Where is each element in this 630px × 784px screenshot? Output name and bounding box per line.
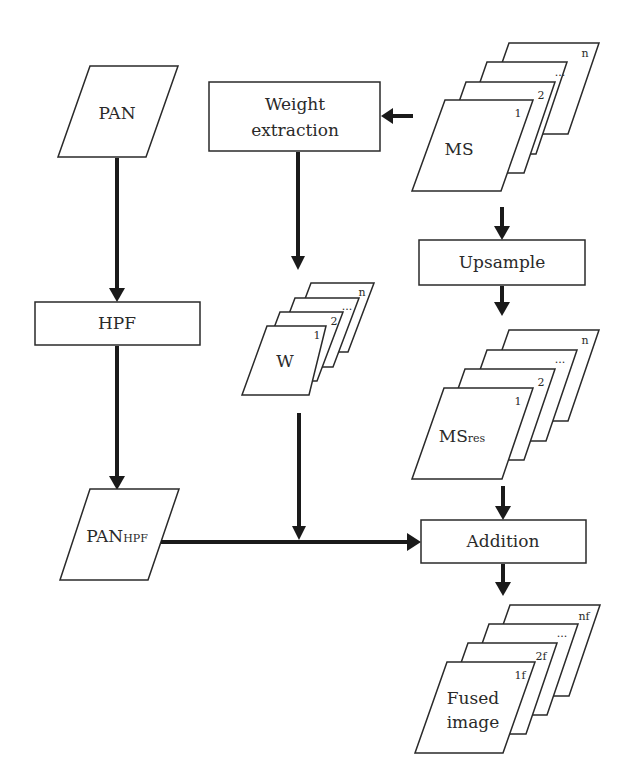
upsample-node: Upsample bbox=[419, 240, 585, 285]
ms-stack: n ... 2 1 MS bbox=[412, 43, 599, 191]
hpf-node: HPF bbox=[35, 302, 200, 345]
svg-text:2: 2 bbox=[331, 315, 338, 328]
arrow-ms-to-weight-extraction bbox=[381, 108, 413, 124]
weight-extraction-box bbox=[209, 82, 380, 151]
arrow-upsample-to-msres bbox=[494, 286, 510, 316]
arrow-ms-to-upsample bbox=[494, 207, 510, 240]
svg-text:...: ... bbox=[557, 627, 568, 640]
pan-node: PAN bbox=[58, 66, 178, 157]
arrow-head-icon bbox=[494, 302, 510, 316]
svg-text:1: 1 bbox=[314, 329, 321, 342]
arrow-head-icon bbox=[109, 476, 125, 490]
fused-label-line2: image bbox=[447, 712, 500, 732]
arrow-w-to-junction bbox=[292, 413, 306, 540]
svg-text:2: 2 bbox=[538, 89, 545, 102]
svg-text:1: 1 bbox=[515, 107, 522, 120]
svg-text:1f: 1f bbox=[514, 669, 526, 682]
svg-text:n: n bbox=[358, 286, 365, 299]
pan-label: PAN bbox=[98, 103, 135, 123]
weight-extraction-label-line1: Weight bbox=[265, 94, 325, 114]
svg-text:2f: 2f bbox=[535, 650, 547, 663]
arrow-pan-to-hpf bbox=[109, 158, 125, 302]
arrow-head-icon bbox=[495, 582, 511, 596]
ms-label: MS bbox=[444, 139, 473, 159]
w-stack: n ... 2 1 W bbox=[242, 283, 374, 395]
arrow-head-icon bbox=[407, 533, 421, 551]
fused-image-stack: nf ... 2f 1f Fused image bbox=[415, 605, 600, 753]
arrow-panhpf-to-addition bbox=[161, 533, 421, 551]
arrow-head-icon bbox=[381, 108, 393, 124]
svg-text:1: 1 bbox=[515, 395, 522, 408]
upsample-label: Upsample bbox=[459, 252, 546, 272]
fusion-flowchart: PAN HPF PANHPF Weight extraction bbox=[0, 0, 630, 784]
svg-text:...: ... bbox=[342, 300, 353, 313]
ms-res-stack: n ... 2 1 MSres bbox=[412, 330, 599, 479]
weight-extraction-node: Weight extraction bbox=[209, 82, 380, 151]
pan-hpf-node: PANHPF bbox=[60, 489, 179, 580]
svg-text:nf: nf bbox=[578, 610, 590, 623]
hpf-label: HPF bbox=[98, 313, 136, 333]
arrow-weight-extraction-to-w bbox=[291, 152, 305, 270]
svg-text:2: 2 bbox=[538, 376, 545, 389]
addition-node: Addition bbox=[421, 520, 586, 563]
svg-text:...: ... bbox=[555, 66, 566, 79]
arrow-head-icon bbox=[292, 526, 306, 540]
w-label: W bbox=[276, 351, 294, 371]
arrow-head-icon bbox=[291, 256, 305, 270]
arrow-addition-to-fused bbox=[495, 564, 511, 596]
addition-label: Addition bbox=[466, 531, 540, 551]
arrow-hpf-to-panhpf bbox=[109, 346, 125, 490]
fused-label-line1: Fused bbox=[447, 688, 500, 708]
arrow-head-icon bbox=[109, 288, 125, 302]
svg-text:n: n bbox=[581, 334, 588, 347]
svg-text:...: ... bbox=[555, 353, 566, 366]
weight-extraction-label-line2: extraction bbox=[251, 120, 339, 140]
arrow-msres-to-addition bbox=[495, 486, 511, 520]
arrow-head-icon bbox=[495, 506, 511, 520]
svg-text:n: n bbox=[581, 47, 588, 60]
arrow-head-icon bbox=[494, 226, 510, 240]
